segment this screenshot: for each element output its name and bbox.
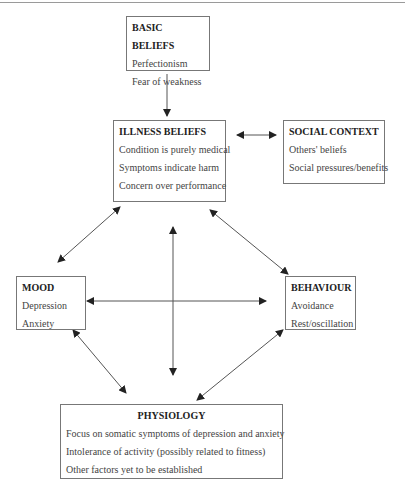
basic-beliefs-title: BASIC BELIEFS	[132, 19, 204, 55]
illness-beliefs-item: Concern over performance	[119, 177, 220, 195]
basic-beliefs-box: BASIC BELIEFS Perfectionism Fear of weak…	[126, 16, 210, 71]
illness-beliefs-title: ILLNESS BELIEFS	[119, 123, 220, 141]
mood-box: MOOD Depression Anxiety	[16, 276, 86, 330]
mood-item: Depression	[22, 297, 80, 315]
physiology-item: Focus on somatic symptoms of depression …	[66, 425, 277, 443]
behaviour-item: Rest/oscillation	[291, 315, 350, 333]
physiology-box: PHYSIOLOGY Focus on somatic symptoms of …	[60, 404, 283, 479]
arrow-illness-mood	[58, 207, 120, 262]
arrow-behaviour-physiology	[197, 330, 283, 400]
behaviour-item: Avoidance	[291, 297, 350, 315]
illness-beliefs-box: ILLNESS BELIEFS Condition is purely medi…	[113, 120, 226, 202]
basic-beliefs-item: Fear of weakness	[132, 73, 204, 91]
social-context-box: SOCIAL CONTEXT Others' beliefs Social pr…	[283, 120, 385, 184]
physiology-item: Intolerance of activity (possibly relate…	[66, 443, 277, 461]
physiology-title: PHYSIOLOGY	[66, 407, 277, 425]
mood-title: MOOD	[22, 279, 80, 297]
arrow-mood-physiology	[73, 330, 126, 393]
social-context-item: Social pressures/benefits	[289, 159, 379, 177]
social-context-title: SOCIAL CONTEXT	[289, 123, 379, 141]
mood-item: Anxiety	[22, 315, 80, 333]
social-context-item: Others' beliefs	[289, 141, 379, 159]
behaviour-title: BEHAVIOUR	[291, 279, 350, 297]
arrow-illness-behaviour	[210, 210, 288, 274]
illness-beliefs-item: Symptoms indicate harm	[119, 159, 220, 177]
physiology-item: Other factors yet to be established	[66, 461, 277, 479]
illness-beliefs-item: Condition is purely medical	[119, 141, 220, 159]
basic-beliefs-item: Perfectionism	[132, 55, 204, 73]
behaviour-box: BEHAVIOUR Avoidance Rest/oscillation	[285, 276, 356, 330]
